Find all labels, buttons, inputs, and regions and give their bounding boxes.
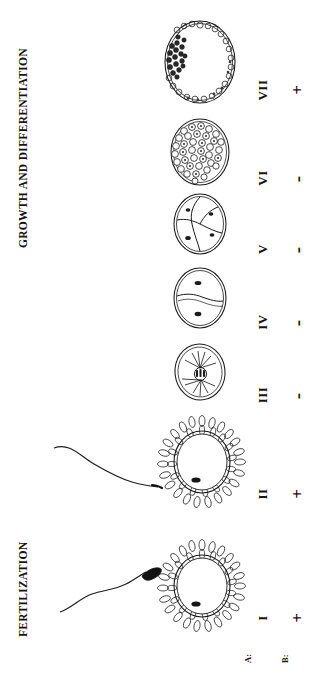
section-heading-growth-and-differentiation: GROWTH AND DIFFERENTIATION (17, 48, 29, 248)
cell-illustration-blastocyst (152, 12, 248, 112)
stage-numeral-v: V (255, 234, 271, 264)
stage-mark-iii: - (287, 382, 309, 410)
stage-mark-iv: - (287, 309, 309, 337)
stage-numeral-vi: VI (255, 163, 271, 193)
section-heading-fertilization: FERTILIZATION (17, 542, 29, 637)
embryo-development-figure: GROWTH AND DIFFERENTIATION FERTILIZATION… (0, 0, 315, 681)
stage-numeral-vii: VII (255, 75, 271, 105)
stage-mark-vii: + (288, 76, 308, 104)
sperm-penetrating-illustration (52, 432, 164, 494)
cell-illustration-two-cell (152, 262, 248, 334)
stage-numeral-iii: III (255, 380, 271, 410)
stage-mark-ii: + (288, 480, 308, 508)
row-label-a: A: (243, 654, 253, 663)
row-label-b: B: (280, 655, 290, 664)
cell-illustration-zygote-spindle (152, 336, 248, 408)
cell-illustration-morula (152, 113, 248, 191)
cell-illustration-four-cell (152, 188, 248, 260)
stage-mark-v: - (287, 236, 309, 264)
cell-illustration-oocyte-corona (152, 534, 248, 638)
stage-mark-vi: - (287, 165, 309, 193)
cell-illustration-oocyte-penetrated (152, 410, 248, 514)
stage-mark-i: + (288, 604, 308, 632)
sperm-approaching-illustration (58, 556, 164, 624)
stage-numeral-iv: IV (255, 307, 271, 337)
stage-numeral-ii: II (255, 479, 271, 509)
stage-numeral-i: I (255, 603, 271, 633)
